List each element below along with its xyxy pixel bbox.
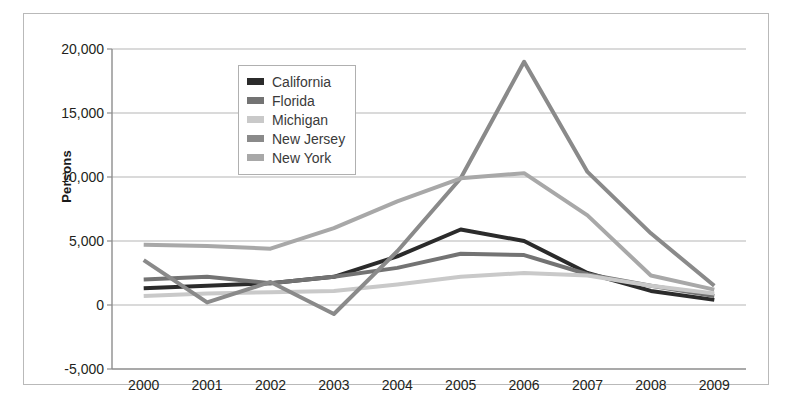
legend-item: New Jersey	[247, 129, 345, 148]
x-tick-label: 2000	[111, 377, 177, 393]
legend-swatch-icon	[247, 97, 264, 104]
legend-item: California	[247, 72, 345, 91]
legend-label: New York	[272, 151, 331, 165]
legend-swatch-icon	[247, 154, 264, 161]
x-tick-label: 2009	[681, 377, 747, 393]
x-tick-label: 2007	[555, 377, 621, 393]
x-tick-label: 2008	[618, 377, 684, 393]
legend-label: California	[272, 75, 331, 89]
legend-label: New Jersey	[272, 132, 345, 146]
legend-label: Florida	[272, 94, 315, 108]
x-tick-label: 2005	[428, 377, 494, 393]
legend-item: Florida	[247, 91, 345, 110]
legend-label: Michigan	[272, 113, 328, 127]
x-axis-ticks: 2000200120022003200420052006200720082009	[24, 14, 770, 386]
chart-frame: Persons 20,00015,00010,0005,0000-5,000 2…	[23, 13, 769, 385]
chart-legend: CaliforniaFloridaMichiganNew JerseyNew Y…	[238, 65, 356, 175]
legend-item: Michigan	[247, 110, 345, 129]
x-tick-label: 2004	[364, 377, 430, 393]
legend-item: New York	[247, 148, 345, 167]
x-tick-label: 2006	[491, 377, 557, 393]
x-tick-label: 2001	[174, 377, 240, 393]
legend-swatch-icon	[247, 135, 264, 142]
x-tick-label: 2003	[301, 377, 367, 393]
legend-swatch-icon	[247, 78, 264, 85]
figure-container: Persons 20,00015,00010,0005,0000-5,000 2…	[0, 0, 791, 414]
legend-swatch-icon	[247, 116, 264, 123]
x-tick-label: 2002	[238, 377, 304, 393]
